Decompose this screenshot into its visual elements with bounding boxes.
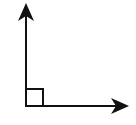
right-angle-diagram xyxy=(0,0,136,125)
right-angle-marker xyxy=(26,89,43,106)
